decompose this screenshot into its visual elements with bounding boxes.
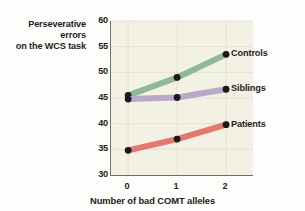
x-tick-label: 1: [168, 181, 184, 191]
chart-figure: Perseverative errors on the WCS task 605…: [0, 0, 305, 211]
series-label-controls: Controls: [231, 48, 268, 58]
x-axis-title: Number of bad COMT alleles: [0, 195, 305, 206]
x-tick-label: 0: [119, 181, 135, 191]
x-tick-label: 2: [217, 181, 233, 191]
series-label-siblings: Siblings: [231, 83, 266, 93]
series-label-patients: Patients: [231, 119, 266, 129]
x-axis-tick-labels: 012: [0, 0, 305, 211]
